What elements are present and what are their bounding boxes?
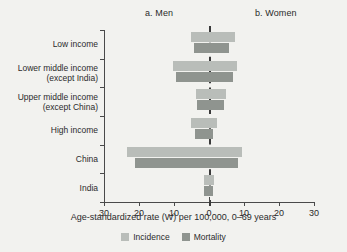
bar-row [104, 30, 314, 59]
x-tick [104, 202, 105, 206]
y-axis-label: Upper middle income (except China) [3, 92, 98, 112]
bar-mortality [204, 186, 213, 196]
panel-title-women: b. Women [255, 8, 297, 18]
bar-incidence [191, 32, 235, 42]
y-axis-label: China [3, 154, 98, 164]
y-tick [100, 173, 104, 174]
bar-incidence [127, 147, 242, 157]
bar-mortality [194, 43, 229, 53]
x-tick [174, 202, 175, 206]
figure-canvas: a. Men b. Women Low incomeLower middle i… [0, 0, 347, 252]
chart-legend: Incidence Mortality [0, 232, 347, 242]
bar-row [104, 145, 314, 174]
bar-row [104, 87, 314, 116]
bar-row [104, 116, 314, 145]
bar-incidence [191, 118, 218, 128]
y-axis-label: Low income [3, 39, 98, 49]
x-tick [209, 197, 210, 202]
legend-swatch-mortality [182, 233, 190, 241]
bar-incidence [173, 61, 237, 71]
legend-item-mortality: Mortality [182, 232, 226, 242]
x-tick [314, 202, 315, 206]
y-axis-label: Lower middle income (except India) [3, 63, 98, 83]
y-axis-label: High income [3, 125, 98, 135]
legend-item-incidence: Incidence [121, 232, 169, 242]
bar-row [104, 59, 314, 88]
panel-title-men: a. Men [145, 8, 173, 18]
plot-area [104, 30, 314, 202]
bar-incidence [196, 89, 226, 99]
y-tick [100, 30, 104, 31]
y-tick [100, 87, 104, 88]
bar-mortality [197, 100, 224, 110]
x-tick [244, 202, 245, 206]
legend-label-mortality: Mortality [194, 232, 226, 242]
y-tick [100, 116, 104, 117]
bar-mortality [195, 129, 213, 139]
y-tick [100, 59, 104, 60]
y-axis-label: India [3, 183, 98, 193]
x-tick [279, 202, 280, 206]
legend-swatch-incidence [121, 233, 129, 241]
bar-mortality [176, 72, 233, 82]
x-axis-title: Age-standardized rate (W) per 100,000, 0… [0, 212, 347, 222]
x-tick [139, 202, 140, 206]
bar-mortality [135, 158, 238, 168]
y-tick [100, 145, 104, 146]
bar-incidence [204, 175, 213, 185]
legend-label-incidence: Incidence [133, 232, 169, 242]
